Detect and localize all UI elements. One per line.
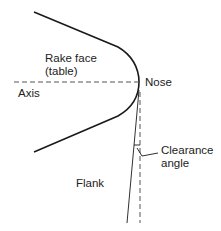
nose-label: Nose (145, 76, 172, 89)
rake-face-sublabel: (table) (45, 65, 78, 78)
axis-label: Axis (18, 87, 40, 100)
clearance-angle-sublabel: angle (161, 157, 189, 170)
clearance-angle-label: Clearance (161, 144, 213, 157)
flank-line (127, 90, 139, 223)
tool-nose-diagram (0, 0, 221, 231)
flank-label: Flank (76, 177, 104, 190)
rake-face-label: Rake face (45, 52, 97, 65)
